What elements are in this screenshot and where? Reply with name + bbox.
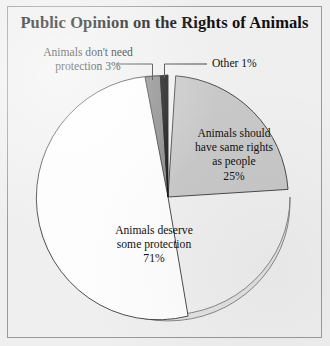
chart-title: Public Opinion on the Rights of Animals (9, 13, 320, 33)
slice-label-animals-deserve-some-protection: Animals deserve some protection 71% (84, 224, 224, 267)
slice-label-animals-dont-need-protection: Animals don't need protection 3% (22, 46, 154, 73)
pie-chart-figure: Public Opinion on the Rights of Animals (0, 0, 330, 346)
slice-label-animals-should-have-same-rights: Animals should have same rights as peopl… (178, 127, 290, 184)
slice-label-other: Other 1% (212, 57, 290, 71)
leader-line-other (165, 64, 208, 78)
